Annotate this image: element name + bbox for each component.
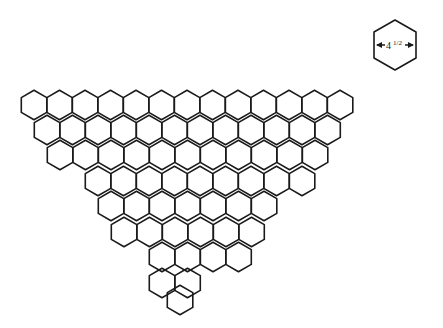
hexagon-cell bbox=[188, 217, 214, 246]
arrow-right-icon bbox=[408, 42, 414, 48]
hexagon-cell bbox=[162, 217, 188, 246]
hexagon-cell bbox=[47, 90, 73, 119]
hexagon-cell bbox=[327, 90, 353, 119]
hexagon-cell bbox=[21, 90, 47, 119]
hexagon-cell bbox=[187, 166, 213, 195]
hexagon-cell bbox=[162, 166, 188, 195]
hexagon-cell bbox=[137, 217, 163, 246]
hexagon-grid bbox=[21, 90, 353, 314]
hexagon-cell bbox=[149, 242, 175, 271]
hexagon-cell bbox=[175, 140, 201, 169]
hexagon-cell bbox=[124, 191, 150, 220]
hexagon-cell bbox=[111, 166, 137, 195]
hexagon-cell bbox=[200, 191, 226, 220]
hexagon-cell bbox=[111, 115, 137, 144]
hexagon-cell bbox=[85, 166, 111, 195]
hexagon-cell bbox=[226, 140, 252, 169]
hexagon-cell bbox=[175, 242, 201, 271]
hexagon-cell bbox=[200, 242, 226, 271]
hexagon-cell bbox=[264, 166, 290, 195]
hexagon-diagram: 4 1/2 bbox=[0, 0, 443, 328]
hexagon-cell bbox=[98, 191, 124, 220]
hexagon-cell bbox=[123, 90, 149, 119]
hexagon-cell bbox=[226, 242, 252, 271]
hexagon-cell bbox=[200, 90, 226, 119]
hexagon-cell bbox=[149, 191, 175, 220]
hexagon-cell bbox=[251, 191, 276, 220]
hexagon-cell bbox=[162, 115, 188, 144]
hexagon-cell bbox=[187, 115, 213, 144]
hexagon-cell bbox=[276, 90, 302, 119]
hexagon-cell bbox=[149, 268, 175, 297]
hexagon-cell bbox=[149, 140, 175, 169]
hexagon-cell bbox=[289, 115, 315, 144]
hexagon-cell bbox=[226, 191, 252, 220]
hexagon-cell bbox=[302, 140, 328, 169]
hexagon-cell bbox=[136, 166, 162, 195]
hexagon-cell bbox=[175, 268, 201, 297]
hexagon-cell bbox=[98, 90, 124, 119]
dimension-fraction: 1/2 bbox=[393, 39, 402, 47]
hexagon-cell bbox=[200, 140, 226, 169]
hexagon-cell bbox=[47, 140, 73, 169]
hexagon-cell bbox=[289, 166, 315, 195]
hexagon-cell bbox=[251, 140, 276, 169]
hexagon-cell bbox=[111, 217, 137, 246]
size-legend: 4 1/2 bbox=[374, 20, 416, 70]
hexagon-cell bbox=[72, 90, 98, 119]
hexagon-cell bbox=[238, 115, 263, 144]
hexagon-cell bbox=[264, 115, 290, 144]
hexagon-cell bbox=[85, 115, 111, 144]
hexagon-cell bbox=[277, 140, 303, 169]
hexagon-cell bbox=[213, 166, 239, 195]
hexagon-cell bbox=[238, 166, 263, 195]
hexagon-cell bbox=[136, 115, 162, 144]
arrow-left-icon bbox=[376, 42, 382, 48]
hexagon-cell bbox=[149, 90, 175, 119]
hexagon-cell bbox=[124, 140, 150, 169]
hexagon-cell bbox=[73, 140, 99, 169]
hexagon-cell bbox=[239, 217, 264, 246]
hexagon-cell bbox=[174, 90, 200, 119]
hexagon-cell bbox=[302, 90, 328, 119]
dimension-label: 4 bbox=[386, 40, 391, 51]
hexagon-cell bbox=[225, 90, 251, 119]
hexagon-cell bbox=[34, 115, 60, 144]
hexagon-cell bbox=[251, 90, 276, 119]
hexagon-cell bbox=[213, 217, 239, 246]
hexagon-cell bbox=[60, 115, 86, 144]
hexagon-cell bbox=[315, 115, 341, 144]
hexagon-cell bbox=[167, 285, 193, 314]
hexagon-cell bbox=[213, 115, 239, 144]
hexagon-cell bbox=[98, 140, 124, 169]
hexagon-cell bbox=[175, 191, 201, 220]
